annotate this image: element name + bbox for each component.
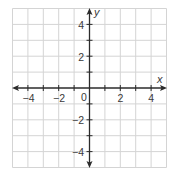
x-tick-label-pos2: 2 bbox=[117, 92, 123, 104]
coordinate-plane: x y −4 −2 0 2 4 4 2 −2 −4 bbox=[0, 0, 175, 178]
y-axis-label: y bbox=[93, 6, 101, 18]
x-tick-label-neg2: −2 bbox=[53, 92, 65, 104]
x-tick-label-pos4: 4 bbox=[148, 92, 154, 104]
y-tick-label-neg2: −2 bbox=[72, 114, 84, 126]
x-axis-label: x bbox=[156, 73, 163, 85]
x-tick-label-neg4: −4 bbox=[23, 92, 35, 104]
y-tick-label-neg4: −4 bbox=[72, 146, 84, 158]
y-tick-label-pos2: 2 bbox=[78, 51, 84, 63]
origin-label: 0 bbox=[81, 91, 87, 103]
y-tick-label-pos4: 4 bbox=[78, 19, 84, 31]
